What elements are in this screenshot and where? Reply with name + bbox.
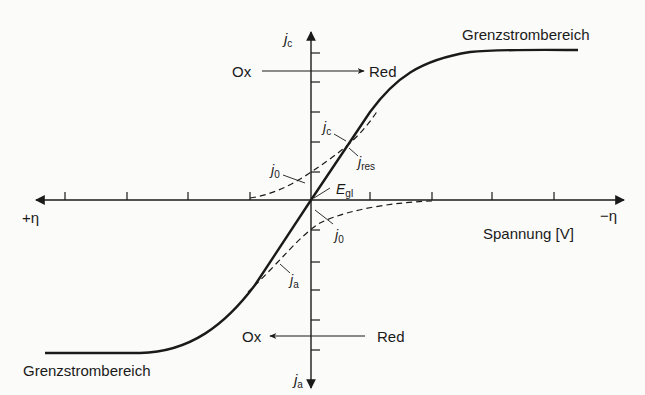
ja-dashed-curve [248, 201, 432, 292]
label-leader-lines [280, 134, 358, 273]
current-voltage-diagram [0, 0, 645, 395]
y-axis-ticks [311, 53, 320, 350]
lower-ox-label: Ox [242, 329, 261, 344]
jres-label: jres [358, 155, 375, 172]
x-axis-right-label: −η [600, 208, 617, 223]
x-axis-ticks [65, 192, 554, 200]
x-axis-left-label: +η [22, 210, 39, 225]
x-axis-title: Spannung [V] [483, 226, 574, 241]
y-axis-top-label: jc [284, 31, 292, 49]
j0-lower-label: j0 [335, 228, 344, 245]
y-axis-bottom-label: ja [294, 372, 303, 390]
egl-label: Egl [336, 182, 353, 199]
j0-upper-label: j0 [271, 163, 280, 180]
lower-red-label: Red [377, 329, 405, 344]
upper-red-label: Red [369, 64, 397, 79]
upper-ox-label: Ox [232, 64, 251, 79]
lower-limiting-current-label: Grenzstrombereich [23, 363, 151, 378]
ja-label: ja [290, 273, 299, 290]
upper-limiting-current-label: Grenzstrombereich [462, 27, 590, 42]
jc-label: jc [323, 120, 331, 137]
